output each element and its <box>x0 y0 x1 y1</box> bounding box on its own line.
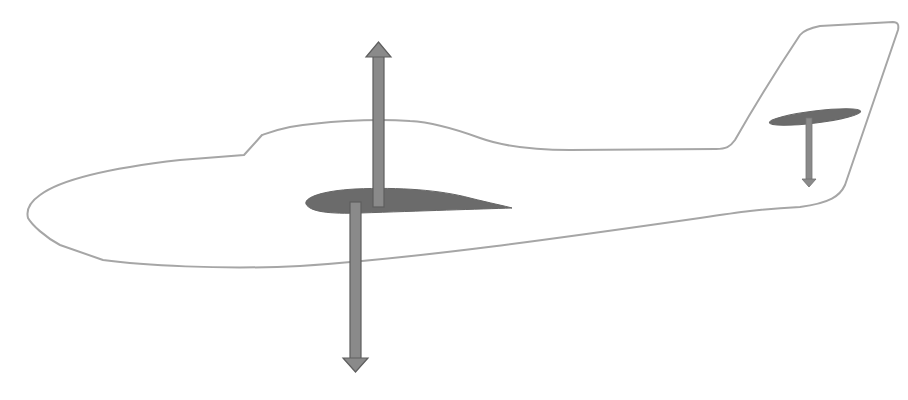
tailplane-airfoil <box>769 105 862 128</box>
fuselage-outline <box>28 22 899 267</box>
tail-downforce-arrow <box>802 118 816 187</box>
main-wing-airfoil <box>306 188 512 213</box>
diagram-svg <box>0 0 908 400</box>
airplane-force-diagram <box>0 0 908 400</box>
lift-arrow <box>366 42 391 207</box>
weight-arrow <box>343 202 368 372</box>
